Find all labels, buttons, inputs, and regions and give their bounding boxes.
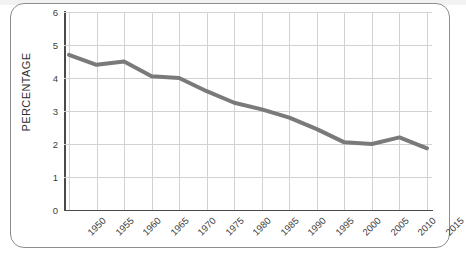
y-tick-label: 6 xyxy=(40,7,58,18)
y-tick-label: 2 xyxy=(40,139,58,150)
data-series-line xyxy=(64,12,432,210)
y-tick-label: 1 xyxy=(40,172,58,183)
y-tick-label: 5 xyxy=(40,40,58,51)
y-tick-label: 3 xyxy=(40,106,58,117)
line-chart: PERCENTAGE 0123456 195019551960196519701… xyxy=(0,0,466,259)
y-tick-label: 4 xyxy=(40,73,58,84)
y-tick-label: 0 xyxy=(40,205,58,216)
